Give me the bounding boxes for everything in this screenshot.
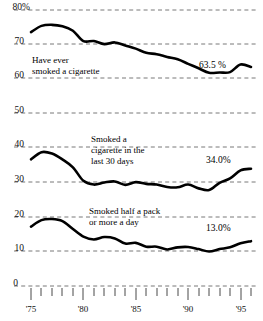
annotation-half-pack: Smoked half a pack or more a day (89, 206, 160, 228)
y-tick-40: 40 (0, 140, 24, 150)
annotation-have-ever-smoked: Have ever smoked a cigarette (32, 55, 99, 77)
annotation-halfpack-line2: or more a day (89, 217, 160, 228)
x-tick-1975: '75 (17, 305, 45, 314)
y-tick-20: 20 (0, 210, 24, 220)
smoking-trend-chart: 80% 70 60 50 40 30 20 10 0 '75 '80 '85 '… (0, 0, 263, 321)
y-tick-80: 80% (0, 3, 30, 13)
y-tick-70: 70 (0, 37, 24, 47)
x-tick-1985: '85 (122, 305, 150, 314)
annotation-have-ever-line2: smoked a cigarette (32, 66, 99, 77)
value-label-last-30-days: 34.0% (206, 155, 231, 165)
y-tick-0: 0 (0, 279, 18, 289)
x-tick-1990: '90 (174, 305, 202, 314)
y-tick-60: 60 (0, 71, 24, 81)
y-tick-30: 30 (0, 175, 24, 185)
value-label-have-ever-smoked: 63.5 % (199, 60, 226, 70)
annotation-last30-line2: cigarette in the (91, 145, 144, 156)
y-tick-10: 10 (0, 244, 24, 254)
x-axis-ticks (31, 288, 251, 300)
y-tick-50: 50 (0, 106, 24, 116)
annotation-last-30-days: Smoked a cigarette in the last 30 days (91, 134, 144, 167)
annotation-last30-line1: Smoked a (91, 134, 144, 145)
annotation-last30-line3: last 30 days (91, 156, 144, 167)
x-tick-1995: '95 (227, 305, 255, 314)
value-label-half-pack: 13.0% (206, 223, 231, 233)
annotation-halfpack-line1: Smoked half a pack (89, 206, 160, 217)
x-tick-1980: '80 (69, 305, 97, 314)
annotation-have-ever-line1: Have ever (32, 55, 99, 66)
